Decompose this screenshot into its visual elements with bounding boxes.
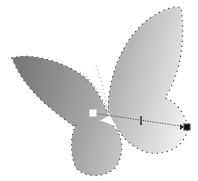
gradient-end-handle — [184, 124, 190, 130]
left-lower-wing — [72, 120, 122, 175]
butterfly-artwork[interactable] — [0, 0, 198, 181]
right-upper-wing — [108, 7, 188, 153]
drawing-canvas[interactable]: Butterfly shape Interactive fill — [0, 0, 198, 181]
gradient-start-handle — [90, 110, 96, 116]
gradient-midpoint-slider — [140, 116, 142, 125]
